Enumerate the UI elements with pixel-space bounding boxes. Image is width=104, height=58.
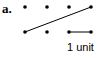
unit-scale-label: 1 unit (67, 41, 94, 53)
grid-dot (45, 5, 49, 9)
grid-dot (67, 5, 71, 9)
grid-dot (23, 5, 27, 9)
diagonal-segment (25, 7, 91, 32)
grid-dot (45, 30, 49, 34)
